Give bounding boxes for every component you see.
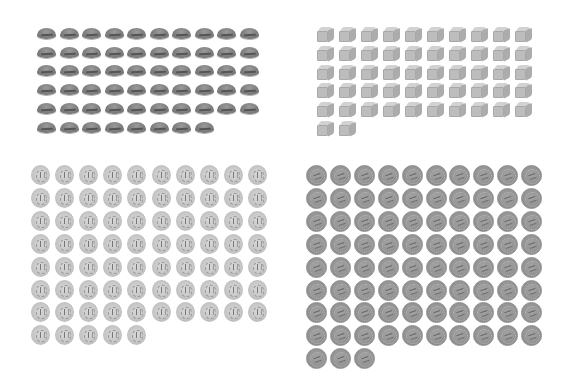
dark-coin-icon [306, 257, 327, 278]
block-side-face [350, 28, 356, 43]
block-side-face [372, 103, 378, 118]
block-side-face [438, 84, 444, 99]
cube-block-icon [339, 27, 356, 42]
light-coin-icon [31, 234, 50, 254]
dark-coin-icon [378, 257, 399, 278]
block-front-face [427, 106, 438, 117]
block-front-face [405, 31, 416, 42]
block-side-face [438, 47, 444, 62]
light-coin-icon [200, 257, 219, 277]
bread-roll-icon [127, 28, 146, 39]
dark-coin-icon [330, 348, 351, 369]
light-coin-icon [152, 280, 171, 300]
light-coin-icon [55, 325, 74, 345]
dark-coin-icon [473, 257, 494, 278]
block-front-face [361, 50, 372, 61]
bread-roll-icon [37, 103, 56, 114]
bread-roll-icon [127, 103, 146, 114]
block-front-face [427, 50, 438, 61]
light-coin-icon [224, 302, 243, 322]
bread-roll-icon [195, 28, 214, 39]
block-side-face [394, 103, 400, 118]
cube-block-icon [471, 83, 488, 98]
dark-coin-icon [330, 188, 351, 209]
light-coin-icon [79, 211, 98, 231]
cube-block-icon [317, 65, 334, 80]
block-side-face [526, 103, 532, 118]
dark-coin-icon [449, 165, 470, 186]
block-side-face [350, 103, 356, 118]
dark-coin-icon [330, 234, 351, 255]
dark-coin-icon [354, 302, 375, 323]
cube-block-icon [383, 27, 400, 42]
dark-coin-icon [497, 234, 518, 255]
cube-block-icon [427, 83, 444, 98]
block-side-face [394, 84, 400, 99]
block-side-face [504, 84, 510, 99]
bread-roll-icon [127, 65, 146, 76]
bread-roll-icon [217, 65, 236, 76]
dark-coin-icon [402, 188, 423, 209]
block-side-face [460, 47, 466, 62]
light-coin-icon [55, 280, 74, 300]
dark-coin-icon [449, 257, 470, 278]
dark-coin-icon [497, 257, 518, 278]
light-coin-icon [176, 211, 195, 231]
light-coin-icon [200, 165, 219, 185]
block-side-face [394, 66, 400, 81]
light-coin-icon [103, 188, 122, 208]
cube-block-icon [405, 102, 422, 117]
light-coin-icon [152, 302, 171, 322]
light-coin-icon [176, 257, 195, 277]
bread-roll-icon [150, 28, 169, 39]
block-side-face [482, 103, 488, 118]
block-side-face [438, 66, 444, 81]
dark-coin-icon [402, 211, 423, 232]
cube-block-icon [471, 65, 488, 80]
bread-roll-icon [60, 65, 79, 76]
block-front-face [493, 31, 504, 42]
light-coin-icon [103, 257, 122, 277]
dark-coin-icon [497, 188, 518, 209]
dark-coin-icon [330, 325, 351, 346]
cube-block-icon [361, 83, 378, 98]
light-coin-icon [224, 234, 243, 254]
dark-coin-icon [378, 280, 399, 301]
block-side-face [482, 47, 488, 62]
dark-coin-icon [354, 188, 375, 209]
block-front-face [383, 87, 394, 98]
counting-sheet [0, 0, 564, 391]
dark-coin-icon [402, 165, 423, 186]
bread-roll-icon [150, 47, 169, 58]
light-coin-icon [127, 188, 146, 208]
light-coin-icon [224, 165, 243, 185]
dark-coin-icon [521, 188, 542, 209]
light-coin-icon [31, 280, 50, 300]
block-side-face [438, 28, 444, 43]
block-side-face [394, 28, 400, 43]
bread-roll-icon [195, 84, 214, 95]
bread-roll-icon [195, 122, 214, 133]
cube-block-icon [493, 102, 510, 117]
dark-coin-icon [426, 325, 447, 346]
cube-block-icon [317, 46, 334, 61]
dark-coin-icon [378, 302, 399, 323]
dark-coin-icon [330, 165, 351, 186]
bread-roll-icon [150, 84, 169, 95]
block-front-face [515, 106, 526, 117]
light-coin-icon [55, 188, 74, 208]
block-front-face [493, 106, 504, 117]
block-front-face [339, 125, 350, 136]
block-side-face [504, 28, 510, 43]
block-side-face [504, 47, 510, 62]
bread-roll-icon [105, 65, 124, 76]
dark-coin-icon [306, 234, 327, 255]
block-front-face [515, 69, 526, 80]
light-coin-icon [248, 211, 267, 231]
dark-coin-icon [330, 211, 351, 232]
dark-coin-icon [354, 165, 375, 186]
bread-roll-icon [195, 103, 214, 114]
bread-roll-icon [217, 28, 236, 39]
block-front-face [471, 87, 482, 98]
cube-block-icon [317, 27, 334, 42]
